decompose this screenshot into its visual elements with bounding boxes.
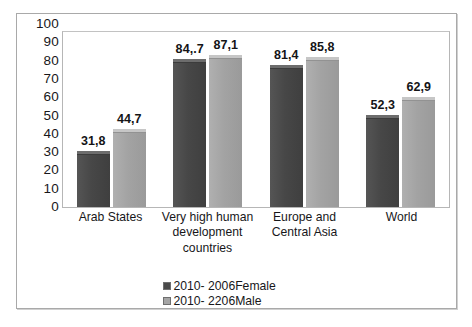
x-axis-category: Arab States <box>62 210 159 256</box>
x-axis-category-line: Very high human <box>161 210 254 225</box>
bar-value-label: 44,7 <box>117 112 142 126</box>
y-axis-tick: 60 <box>19 90 59 104</box>
bar-top-bevel <box>402 97 435 101</box>
y-axis-tick: 90 <box>19 36 59 50</box>
bar-group: 84,.7 87,1 <box>160 32 257 207</box>
x-axis-category-line: Central Asia <box>258 225 351 240</box>
x-axis-category-line: Arab States <box>64 210 157 225</box>
x-axis-category-line: development <box>161 225 254 240</box>
bar-top-bevel <box>306 57 339 61</box>
x-axis-category-labels: Arab States Very high human development … <box>62 210 450 256</box>
x-axis-category: Very high human development countries <box>159 210 256 256</box>
bar-male[interactable]: 87,1 <box>209 55 242 207</box>
x-axis-category-line: countries <box>161 241 254 256</box>
x-axis-category: World <box>353 210 450 256</box>
bar-group: 31,8 44,7 <box>63 32 160 207</box>
y-axis-tick: 0 <box>19 200 59 214</box>
y-axis-tick: 80 <box>19 54 59 68</box>
y-axis-tick: 10 <box>19 182 59 196</box>
bar-group: 81,4 85,8 <box>256 32 353 207</box>
legend-label: 2010- 2206Male <box>174 294 262 308</box>
x-axis-category: Europe and Central Asia <box>256 210 353 256</box>
bar-value-label: 87,1 <box>213 38 238 52</box>
legend-swatch-icon <box>163 282 171 290</box>
plot-area: 31,8 44,7 84,.7 87,1 <box>62 31 450 208</box>
bar-top-bevel <box>77 151 110 155</box>
bar-female[interactable]: 31,8 <box>77 151 110 207</box>
bar-value-label: 31,8 <box>81 134 106 148</box>
y-axis-tick: 70 <box>19 72 59 86</box>
y-axis-tick: 50 <box>19 109 59 123</box>
legend-item-female[interactable]: 2010- 2006Female <box>163 278 313 293</box>
bar-value-label: 84,.7 <box>176 42 204 56</box>
legend-swatch-icon <box>163 297 171 305</box>
y-axis-tick: 30 <box>19 145 59 159</box>
bar-top-bevel <box>366 115 399 119</box>
x-axis-category-line: Europe and <box>258 210 351 225</box>
bar-value-label: 85,8 <box>310 40 335 54</box>
bar-value-label: 52,3 <box>370 98 395 112</box>
y-axis-tick: 100 <box>19 17 59 31</box>
bar-male[interactable]: 85,8 <box>306 57 339 207</box>
bar-top-bevel <box>270 65 303 69</box>
bar-female[interactable]: 84,.7 <box>173 59 206 207</box>
bar-male[interactable]: 44,7 <box>113 129 146 207</box>
bar-group: 52,3 62,9 <box>353 32 450 207</box>
bar-top-bevel <box>209 55 242 59</box>
x-axis-category-line: World <box>355 210 448 225</box>
bars-layer: 31,8 44,7 84,.7 87,1 <box>63 32 449 207</box>
bar-top-bevel <box>113 129 146 133</box>
chart-plot-wrapper: 100 90 80 70 60 50 40 30 20 10 0 31,8 <box>17 14 458 310</box>
bar-value-label: 62,9 <box>406 80 431 94</box>
chart-frame: 100 90 80 70 60 50 40 30 20 10 0 31,8 <box>16 13 457 309</box>
y-axis-tick: 40 <box>19 127 59 141</box>
bar-male[interactable]: 62,9 <box>402 97 435 207</box>
bar-value-label: 81,4 <box>274 48 299 62</box>
bar-top-bevel <box>173 59 206 63</box>
bar-female[interactable]: 52,3 <box>366 115 399 207</box>
legend-item-male[interactable]: 2010- 2206Male <box>163 293 313 308</box>
chart-legend: 2010- 2006Female 2010- 2206Male <box>17 278 458 308</box>
legend-label: 2010- 2006Female <box>174 279 276 293</box>
y-axis-tick: 20 <box>19 164 59 178</box>
y-axis: 100 90 80 70 60 50 40 30 20 10 0 <box>19 24 59 207</box>
bar-female[interactable]: 81,4 <box>270 65 303 207</box>
